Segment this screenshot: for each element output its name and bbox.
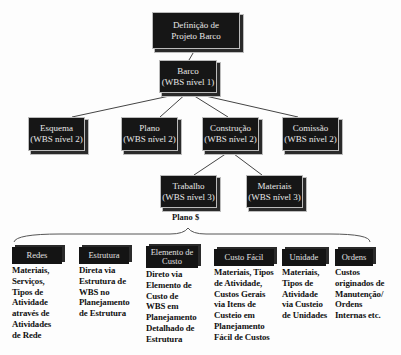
- category-header: Elemento de Custo: [146, 246, 198, 268]
- node-trabalho-wbs3: Trabalho (WBS nível 3): [160, 175, 217, 208]
- desc-line: através de: [12, 308, 62, 319]
- category-title-line: Custo: [162, 257, 182, 266]
- category-title: Redes: [27, 251, 48, 260]
- comissao-line-1: Comissão: [293, 123, 329, 134]
- category-unidade: Unidade Materiais, Tipos de Atividade vi…: [282, 249, 327, 321]
- desc-line: Materiais, Tipos: [214, 267, 274, 278]
- category-header: Custo Fácil: [214, 249, 274, 266]
- category-ordens: Ordens Custos originados de Manutenção/ …: [335, 249, 384, 321]
- desc-line: Tipos de: [12, 287, 62, 298]
- desc-line: Atividade: [12, 297, 62, 308]
- curly-brace: [14, 228, 370, 242]
- trabalho-line-1: Trabalho: [172, 181, 204, 192]
- category-title: Custo Fácil: [225, 253, 264, 262]
- connector-root-barco: [189, 48, 196, 60]
- category-title: Ordens: [342, 253, 367, 262]
- comissao-line-2: (WBS nível 2): [284, 134, 337, 145]
- desc-line: via Custeio: [282, 299, 327, 310]
- desc-line: via Itens de: [214, 299, 274, 310]
- desc-line: Materiais,: [12, 265, 62, 276]
- node-barco-wbs1: Barco (WBS nível 1): [159, 60, 217, 93]
- desc-line: Fácil de Custos: [214, 332, 274, 343]
- root-node-line-1: Definição de: [173, 20, 219, 31]
- node-esquema-wbs2: Esquema (WBS nível 2): [28, 117, 85, 151]
- desc-line: Estrutura de: [79, 276, 130, 287]
- esquema-line-1: Esquema: [40, 123, 73, 134]
- category-description: Direto via Elemento de Custo de WBS em P…: [146, 269, 198, 345]
- category-header: Redes: [12, 247, 62, 264]
- desc-line: Direta via: [79, 265, 130, 276]
- connector-barco-esquema: [72, 92, 188, 117]
- node-materiais-wbs3: Materiais (WBS nível 3): [246, 175, 303, 208]
- desc-line: Direto via: [146, 269, 198, 280]
- category-header: Estrutura: [79, 247, 129, 264]
- category-description: Materiais, Tipos de Atividade via Custei…: [282, 267, 327, 321]
- desc-line: de Rede: [12, 330, 62, 341]
- desc-line: Planejamento: [214, 321, 274, 332]
- category-header: Unidade: [282, 249, 326, 266]
- desc-line: Atividades: [12, 319, 62, 330]
- node-plano-wbs2: Plano (WBS nível 2): [121, 117, 178, 151]
- root-node-definicao-projeto: Definição de Projeto Barco: [152, 12, 240, 49]
- desc-line: Custos: [335, 267, 384, 278]
- desc-line: de Atividade,: [214, 278, 274, 289]
- desc-line: Ordens: [335, 299, 384, 310]
- category-title: Estrutura: [88, 251, 119, 260]
- desc-line: Serviços,: [12, 276, 62, 287]
- plano-line-2: (WBS nível 2): [123, 134, 176, 145]
- desc-line: Planejamento: [79, 297, 130, 308]
- desc-line: Tipos de: [282, 278, 327, 289]
- category-elemento-de-custo: Elemento de Custo Direto via Elemento de…: [146, 246, 198, 345]
- node-comissao-wbs2: Comissão (WBS nível 2): [282, 117, 339, 151]
- desc-line: Elemento de: [146, 280, 198, 291]
- category-description: Materiais, Serviços, Tipos de Atividade …: [12, 265, 62, 341]
- desc-line: Manutenção/: [335, 289, 384, 300]
- desc-line: de Unidades: [282, 310, 327, 321]
- desc-line: Atividade: [282, 289, 327, 300]
- desc-line: Detalhado de: [146, 323, 198, 334]
- desc-line: Custos Gerais: [214, 289, 274, 300]
- connector-barco-comissao: [188, 92, 298, 117]
- category-description: Custos originados de Manutenção/ Ordens …: [335, 267, 384, 321]
- desc-line: WBS no: [79, 287, 130, 298]
- materiais-line-2: (WBS nível 3): [248, 192, 301, 203]
- desc-line: de Estrutura: [79, 308, 130, 319]
- esquema-line-2: (WBS nível 2): [30, 134, 83, 145]
- trabalho-line-2: (WBS nível 3): [162, 192, 215, 203]
- desc-line: Custeio em: [214, 310, 274, 321]
- desc-line: originados de: [335, 278, 384, 289]
- desc-line: Materiais,: [282, 267, 327, 278]
- category-redes: Redes Materiais, Serviços, Tipos de Ativ…: [12, 247, 62, 341]
- desc-line: Custo de: [146, 291, 198, 302]
- construcao-line-2: (WBS nível 2): [204, 134, 257, 145]
- category-estrutura: Estrutura Direta via Estrutura de WBS no…: [79, 247, 130, 319]
- category-custo-facil: Custo Fácil Materiais, Tipos de Atividad…: [214, 249, 274, 343]
- category-description: Direta via Estrutura de WBS no Planejame…: [79, 265, 130, 319]
- category-header: Ordens: [335, 249, 373, 266]
- plan-cost-label: Plano $: [172, 212, 199, 222]
- desc-line: Planejamento: [146, 312, 198, 323]
- desc-line: WBS em: [146, 301, 198, 312]
- desc-line: Internas etc.: [335, 310, 384, 321]
- root-node-line-2: Projeto Barco: [171, 31, 221, 42]
- category-description: Materiais, Tipos de Atividade, Custos Ge…: [214, 267, 274, 343]
- connector-barco-plano: [160, 92, 188, 117]
- connector-construcao-materiais: [230, 151, 262, 175]
- connector-construcao-trabalho: [194, 151, 230, 175]
- node-construcao-wbs2: Construção (WBS nível 2): [202, 117, 259, 151]
- desc-line: Estrutura: [146, 334, 198, 345]
- construcao-line-1: Construção: [210, 123, 251, 134]
- materiais-line-1: Materiais: [258, 181, 292, 192]
- connector-barco-construcao: [188, 92, 228, 117]
- barco-line-2: (WBS nível 1): [162, 77, 215, 88]
- barco-line-1: Barco: [177, 66, 199, 77]
- category-title: Unidade: [290, 253, 319, 262]
- plano-line-1: Plano: [139, 123, 160, 134]
